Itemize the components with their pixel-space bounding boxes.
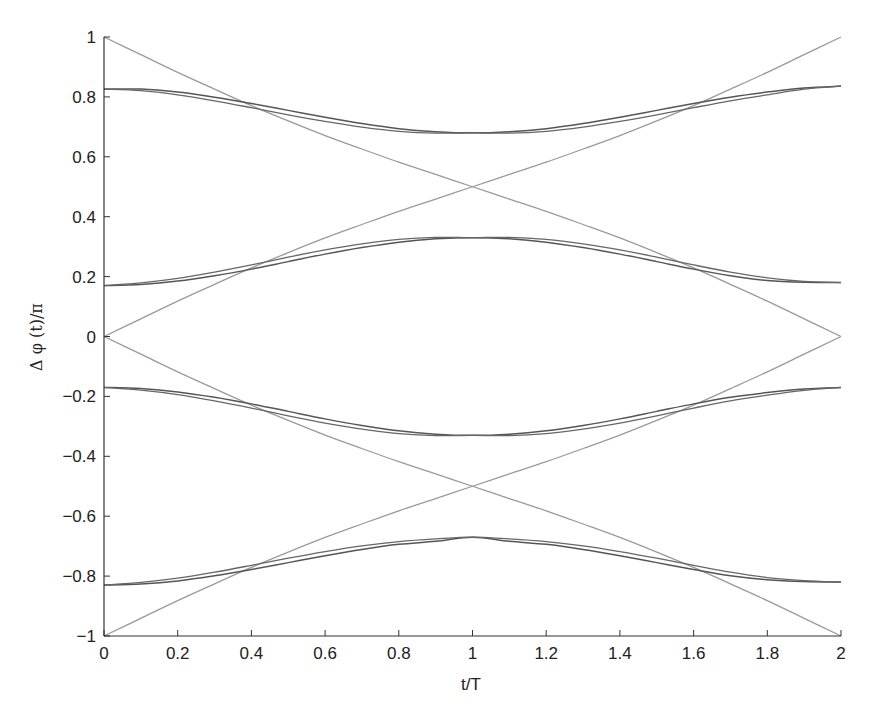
- y-tick-label: 0.6: [72, 148, 96, 167]
- x-tick-label: 0: [99, 644, 108, 663]
- y-axis-ticks: −1−0.8−0.6−0.4−0.200.20.40.60.81: [62, 28, 110, 646]
- x-tick-label: 1.8: [755, 644, 779, 663]
- x-tick-label: 1.2: [534, 644, 558, 663]
- y-tick-label: 0: [87, 328, 96, 347]
- series-dark-inner-lower-a: [104, 387, 841, 435]
- series-dark-inner-upper-b: [104, 237, 841, 285]
- series-light-rising-lower: [104, 337, 841, 637]
- x-axis-label: t/T: [461, 675, 481, 694]
- series-dark-outer-upper-b: [104, 86, 841, 133]
- line-chart: 00.20.40.60.811.21.41.61.82 −1−0.8−0.6−0…: [0, 0, 870, 718]
- x-axis-ticks: 00.20.40.60.811.21.41.61.82: [99, 630, 845, 663]
- x-tick-label: 0.2: [166, 644, 190, 663]
- x-tick-label: 0.8: [387, 644, 411, 663]
- y-tick-label: 1: [87, 28, 96, 47]
- y-tick-label: 0.2: [72, 268, 96, 287]
- y-tick-label: −0.6: [62, 507, 96, 526]
- series-dark-inner-upper-a: [104, 238, 841, 286]
- x-tick-label: 2: [836, 644, 845, 663]
- x-tick-label: 1.6: [682, 644, 706, 663]
- series-dark-outer-lower-a: [104, 537, 841, 585]
- series-dark-outer-lower-b: [104, 537, 841, 585]
- y-tick-label: 0.4: [72, 208, 96, 227]
- x-tick-label: 1: [468, 644, 477, 663]
- series-dark-outer-upper-a: [104, 86, 841, 133]
- x-tick-label: 1.4: [608, 644, 632, 663]
- series-dark-inner-lower-b: [104, 387, 841, 435]
- x-tick-label: 0.4: [240, 644, 264, 663]
- y-tick-label: −0.8: [62, 567, 96, 586]
- y-tick-label: 0.8: [72, 88, 96, 107]
- y-tick-label: −0.4: [62, 447, 96, 466]
- series-layer: [104, 37, 841, 636]
- y-tick-label: −1: [77, 627, 96, 646]
- x-tick-label: 0.6: [313, 644, 337, 663]
- y-tick-label: −0.2: [62, 387, 96, 406]
- axes: 00.20.40.60.811.21.41.61.82 −1−0.8−0.6−0…: [62, 28, 845, 663]
- series-light-rising-upper: [104, 37, 841, 337]
- y-axis-label: Δ φ (t)/π: [27, 303, 46, 371]
